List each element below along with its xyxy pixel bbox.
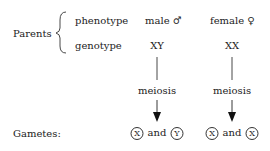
left-brace: [56, 12, 66, 53]
phenotype-label: phenotype: [75, 16, 128, 26]
male-and: and: [148, 128, 167, 138]
female-meiosis-label: meiosis: [213, 86, 251, 96]
genotype-label: genotype: [75, 41, 122, 51]
male-genotype: XY: [150, 41, 164, 51]
parents-label: Parents: [13, 29, 52, 39]
male-gamete-y: Y: [171, 127, 184, 140]
male-phenotype: male ♂: [145, 16, 182, 26]
female-genotype: XX: [225, 41, 239, 51]
male-arrow-head: [153, 112, 161, 122]
gametes-label: Gametes:: [13, 129, 61, 139]
male-gamete-x: X: [131, 127, 144, 140]
female-phenotype: female ♀: [210, 16, 255, 26]
female-and: and: [223, 128, 242, 138]
female-arrow-head: [228, 112, 236, 122]
female-gamete-x2: X: [246, 127, 259, 140]
female-gamete-x1: X: [206, 127, 219, 140]
male-meiosis-label: meiosis: [138, 86, 176, 96]
